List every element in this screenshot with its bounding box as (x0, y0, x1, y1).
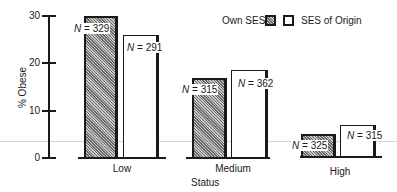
y-tick-label-0: 0 (20, 153, 40, 163)
n-label-high-origin: N = 315 (346, 130, 383, 141)
baseline-low (78, 157, 166, 159)
y-axis-label: % Obese (17, 67, 28, 108)
y-axis-line (48, 16, 50, 159)
n-label-low-own: N = 329 (73, 23, 110, 34)
y-tick-label-10: 10 (20, 106, 40, 116)
legend-own-label: Own SES (222, 15, 265, 26)
y-tick-label-30: 30 (20, 11, 40, 21)
baseline-medium (186, 157, 270, 159)
y-tick-20 (42, 62, 56, 64)
category-label-high: High (320, 166, 360, 177)
category-label-low: Low (102, 163, 142, 174)
legend-own-swatch (265, 15, 276, 26)
y-tick-label-20: 20 (20, 58, 40, 68)
bar-low-origin (123, 35, 159, 157)
category-label-medium: Medium (208, 163, 258, 174)
n-label-low-origin: N = 291 (126, 42, 163, 53)
bar-low-own (84, 16, 118, 157)
y-tick-10 (42, 110, 56, 112)
y-tick-30 (42, 15, 56, 17)
n-label-medium-own: N = 315 (181, 84, 218, 95)
x-axis-label: Status (191, 177, 219, 188)
legend-origin-swatch (283, 15, 294, 26)
n-label-medium-origin: N = 362 (237, 78, 274, 89)
n-label-high-own: N = 325 (291, 140, 328, 151)
y-tick-0 (42, 157, 56, 159)
baseline-high (300, 156, 382, 158)
legend-origin-label: SES of Origin (301, 15, 362, 26)
